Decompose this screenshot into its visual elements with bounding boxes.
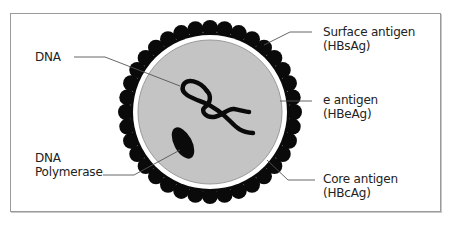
label-e-antigen-line1: e antigen bbox=[323, 93, 378, 107]
label-dna-polymerase-line1: DNA bbox=[35, 151, 103, 165]
label-dna-polymerase: DNA Polymerase bbox=[35, 151, 103, 179]
label-core-antigen: Core antigen (HBcAg) bbox=[323, 172, 398, 200]
label-e-antigen: e antigen (HBeAg) bbox=[323, 93, 378, 121]
label-core-antigen-line1: Core antigen bbox=[323, 172, 398, 186]
label-core-antigen-line2: (HBcAg) bbox=[323, 186, 398, 200]
label-dna-text: DNA bbox=[35, 50, 61, 64]
label-surface-antigen-line1: Surface antigen bbox=[323, 25, 415, 39]
label-surface-antigen-line2: (HBsAg) bbox=[323, 39, 415, 53]
surface-antigen-leader-line bbox=[264, 32, 312, 45]
label-dna: DNA bbox=[35, 50, 61, 64]
label-dna-polymerase-line2: Polymerase bbox=[35, 165, 103, 179]
label-e-antigen-line2: (HBeAg) bbox=[323, 107, 378, 121]
label-surface-antigen: Surface antigen (HBsAg) bbox=[323, 25, 415, 53]
nucleocapsid-core bbox=[138, 40, 282, 184]
